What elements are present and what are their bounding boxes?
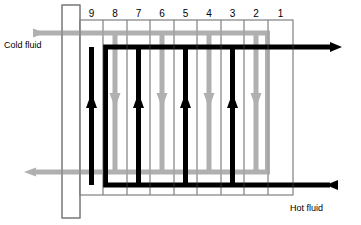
plate-heat-exchanger-diagram: 9 8 7 6 5 4 3 2 1: [0, 0, 361, 225]
channel-number: 2: [253, 8, 259, 19]
channel-number: 9: [89, 8, 95, 19]
channel-number: 4: [206, 8, 212, 19]
hot-fluid-label: Hot fluid: [290, 203, 323, 213]
frame-end-plate: [62, 5, 80, 218]
cold-outlet-arrowhead: [24, 168, 36, 177]
channel-number-row: 9 8 7 6 5 4 3 2 1: [89, 8, 284, 19]
channel-number: 7: [136, 8, 142, 19]
diagram-canvas: 9 8 7 6 5 4 3 2 1: [0, 0, 361, 225]
channel-number: 6: [159, 8, 165, 19]
cold-fluid-label: Cold fluid: [4, 40, 42, 50]
hot-outlet-arrowhead: [330, 42, 342, 52]
channel-number: 8: [112, 8, 118, 19]
channel-number: 3: [230, 8, 236, 19]
channel-number: 5: [183, 8, 189, 19]
channel-number: 1: [278, 8, 284, 19]
